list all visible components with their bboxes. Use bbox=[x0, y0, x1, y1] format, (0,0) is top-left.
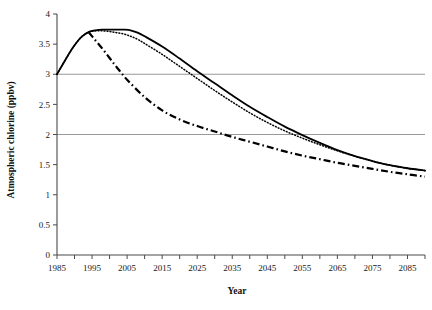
y-tick-label: 2.5 bbox=[39, 100, 51, 110]
x-tick-label: 2065 bbox=[328, 263, 347, 273]
x-tick-label: 2055 bbox=[293, 263, 312, 273]
x-tick-label: 2075 bbox=[363, 263, 382, 273]
y-tick-label: 3.5 bbox=[39, 39, 51, 49]
x-tick-label: 1985 bbox=[48, 263, 67, 273]
x-tick-label: 2035 bbox=[223, 263, 242, 273]
x-tick-label: 2085 bbox=[398, 263, 417, 273]
x-tick-label: 2025 bbox=[188, 263, 207, 273]
x-axis-title: Year bbox=[228, 286, 248, 296]
y-tick-label: 4 bbox=[46, 9, 51, 19]
x-tick-label: 1995 bbox=[83, 263, 102, 273]
y-tick-label: 0.5 bbox=[39, 220, 51, 230]
y-tick-label: 0 bbox=[46, 250, 51, 260]
y-tick-label: 1 bbox=[46, 190, 51, 200]
chart-page: 00.511.522.533.5419851995200520152025203… bbox=[0, 0, 432, 310]
x-tick-label: 2005 bbox=[118, 263, 137, 273]
y-tick-label: 3 bbox=[46, 69, 51, 79]
x-tick-label: 2015 bbox=[153, 263, 172, 273]
atmospheric-chlorine-chart: 00.511.522.533.5419851995200520152025203… bbox=[0, 0, 432, 310]
y-axis-title: Atmospheric chlorine (ppbv) bbox=[6, 81, 17, 198]
y-tick-label: 2 bbox=[46, 130, 51, 140]
y-tick-label: 1.5 bbox=[39, 160, 51, 170]
x-tick-label: 2045 bbox=[258, 263, 277, 273]
